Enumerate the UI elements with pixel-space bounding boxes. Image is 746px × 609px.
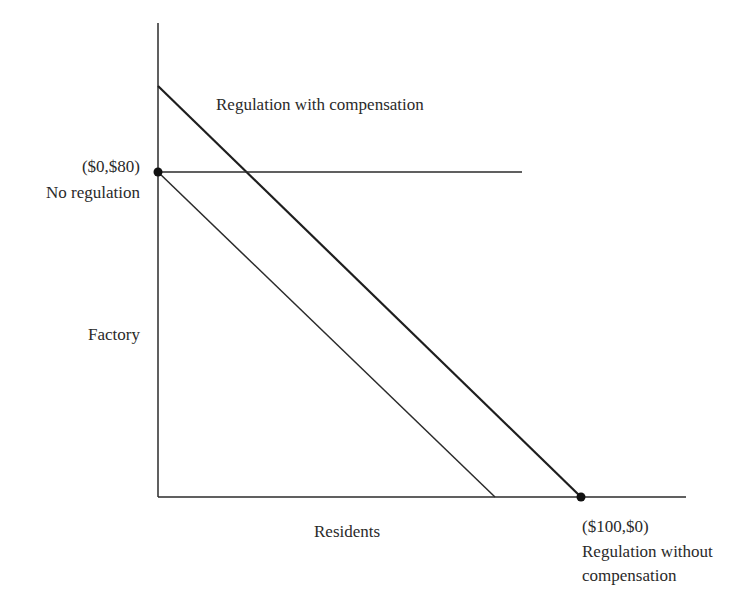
bottom-point-name-line1: Regulation without: [582, 541, 713, 563]
no-regulation-point: [154, 168, 163, 177]
x-axis-label: Residents: [314, 521, 380, 543]
regulation-without-compensation-point: [577, 493, 586, 502]
top-line-label: Regulation with compensation: [216, 94, 424, 116]
bottom-point-name-line2: compensation: [582, 565, 676, 587]
regulation-with-compensation-line: [158, 86, 581, 497]
bottom-point-coord: ($100,$0): [582, 516, 649, 538]
left-point-name: No regulation: [46, 182, 140, 204]
lower-frontier-line: [158, 172, 495, 497]
y-axis-label: Factory: [88, 324, 140, 346]
left-point-coord: ($0,$80): [82, 156, 140, 178]
